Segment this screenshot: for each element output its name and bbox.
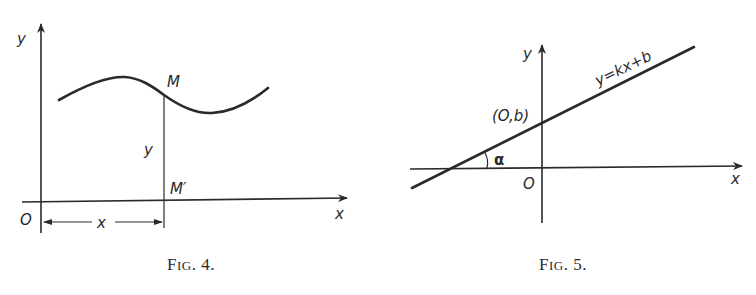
fig4-x-axis [22, 198, 347, 202]
fig5-angle-label: α [494, 151, 504, 169]
figure-4: y x O M M′ y x FIG. 4. [16, 24, 347, 274]
fig4-origin-label: O [20, 211, 32, 229]
fig5-y-axis-label: y [522, 45, 533, 63]
fig5-x-axis-label: x [730, 170, 740, 188]
fig4-point-M-prime-label: M′ [170, 180, 187, 198]
figure-5: y x O (O,b) α y=kx+b FIG. 5. [410, 45, 742, 274]
fig4-x-axis-label: x [334, 205, 344, 223]
fig5-caption: FIG. 5. [539, 255, 587, 274]
figures-canvas: y x O M M′ y x FIG. 4. y x O (O,b) α y=k… [0, 0, 756, 295]
fig5-intercept-label: (O,b) [492, 107, 529, 125]
fig4-ordinate-label: y [143, 141, 154, 159]
fig4-point-M-label: M [167, 73, 180, 91]
fig4-abscissa-label: x [96, 214, 106, 232]
fig5-origin-label: O [523, 175, 535, 193]
fig5-x-axis [410, 166, 742, 169]
fig4-caption: FIG. 4. [167, 255, 215, 274]
fig5-angle-arc [485, 153, 488, 168]
fig4-y-axis-label: y [16, 30, 27, 48]
